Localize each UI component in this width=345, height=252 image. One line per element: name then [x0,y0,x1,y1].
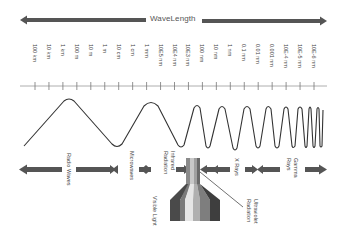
tick-label: 0.1 nm [241,44,247,61]
electromagnetic-spectrum-diagram: WaveLength 100 km10 km1 km100 m10 m1 m10… [0,0,345,252]
tick-label: 10E-5 nm [297,44,303,68]
tick-label: 10 km [46,44,52,59]
radio-waves-label: Radio Waves [66,153,72,186]
tick-label: 10E-6 nm [311,44,317,68]
ultraviolet-label-line2: Radiation [246,199,252,222]
x-rays-label: X Rays [234,158,240,176]
infrared-label-line2: Radiation [163,151,169,174]
gamma-label-line1: Gamma [293,158,299,178]
tick-label: 10 nm [213,44,219,59]
tick-label: 100 km [32,44,38,62]
axis-ticks [35,82,314,90]
tick-label: 1 cm [130,44,136,56]
tick-label: 10E3 nm [185,44,191,66]
infrared-label-line1: Infrared [170,151,176,170]
tick-label: 10 m [88,44,94,56]
tick-label: 10E5 nm [158,44,164,66]
tick-label: 1 mm [144,44,150,58]
tick-label: 100 nm [199,44,205,62]
microwaves-label: Microwaves [129,151,135,180]
visible-light-label: Visible Light [152,196,158,226]
wave-curve [24,99,323,150]
wavelength-title: WaveLength [150,14,196,23]
ultraviolet-label-line1: Ultraviolet [253,199,259,223]
tick-label: 10E4 nm [172,44,178,66]
tick-label: 1 nm [227,44,233,56]
tick-label: 0.01 nm [255,44,261,64]
tick-label: 10E-4 nm [283,44,289,68]
tick-label: 100 m [74,44,80,59]
tick-label: 0.001 nm [269,44,275,67]
gamma-label-line2: Rays [286,158,292,171]
tick-label: 1 km [60,44,66,56]
tick-label: 10 cm [116,44,122,59]
diagram-graphics [0,0,345,252]
tick-label: 1 m [102,44,108,53]
